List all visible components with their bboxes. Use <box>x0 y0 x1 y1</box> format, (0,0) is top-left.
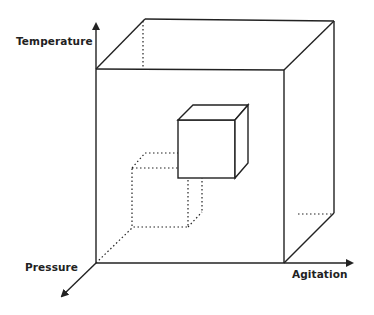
temperature-axis-label: Temperature <box>16 35 93 47</box>
agitation-axis-label: Agitation <box>292 268 348 280</box>
pressure-axis-label: Pressure <box>25 261 78 273</box>
diagram-canvas: Temperature Pressure Agitation <box>0 0 374 315</box>
inner-solid-cube <box>178 105 248 178</box>
